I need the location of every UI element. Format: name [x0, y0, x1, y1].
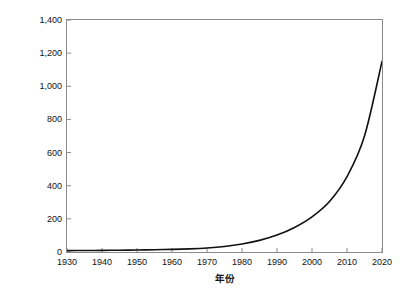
y-tick-label-wrap: 400 — [24, 186, 62, 196]
y-tick-label: 400 — [28, 181, 62, 191]
data-series-line — [67, 61, 382, 250]
y-tick-label: 200 — [28, 214, 62, 224]
y-tick-marks — [67, 20, 71, 252]
x-axis-title: 年份 — [66, 271, 383, 285]
y-tick-label-wrap: 600 — [24, 153, 62, 163]
y-tick-label: 1,200 — [28, 48, 62, 58]
y-tick-label-wrap: 800 — [24, 119, 62, 129]
x-tick-label: 1950 — [117, 257, 157, 267]
y-tick-label-wrap: 200 — [24, 219, 62, 229]
data-line-svg — [67, 20, 382, 252]
y-tick-label: 0 — [28, 247, 62, 257]
y-tick-label: 1,000 — [28, 81, 62, 91]
x-tick-label: 1960 — [152, 257, 192, 267]
y-tick-label-wrap: 1,000 — [24, 86, 62, 96]
x-tick-label: 2010 — [327, 257, 367, 267]
x-tick-label: 2020 — [362, 257, 402, 267]
x-tick-label: 1980 — [222, 257, 262, 267]
y-tick-label: 800 — [28, 114, 62, 124]
y-tick-label-wrap: 1,400 — [24, 20, 62, 30]
plot-area — [66, 19, 383, 253]
x-tick-label: 2000 — [292, 257, 332, 267]
y-tick-label: 600 — [28, 148, 62, 158]
x-tick-label: 1930 — [47, 257, 87, 267]
x-tick-label: 1940 — [82, 257, 122, 267]
y-tick-label: 1,400 — [28, 15, 62, 25]
y-tick-label-wrap: 1,200 — [24, 53, 62, 63]
x-tick-label: 1990 — [257, 257, 297, 267]
chart-container: 高度超过 200 米的建筑的数量（座） 02004006008001,0001,… — [0, 0, 408, 299]
x-tick-label: 1970 — [187, 257, 227, 267]
